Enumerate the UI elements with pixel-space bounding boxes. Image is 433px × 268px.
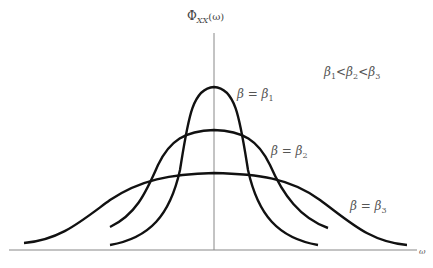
- label-beta3: β = β3: [349, 199, 387, 215]
- label-beta1: β = β1: [236, 87, 274, 103]
- y-axis-label: ΦXX(ω): [187, 9, 224, 25]
- beta-ordering-label: β1<β2<β3: [323, 65, 380, 81]
- x-axis-label: ω: [419, 247, 426, 256]
- power-spectrum-diagram: ΦXX(ω) β1<β2<β3 β = β1 β = β2 β = β3 ω: [0, 0, 433, 268]
- label-beta2: β = β2: [270, 144, 308, 160]
